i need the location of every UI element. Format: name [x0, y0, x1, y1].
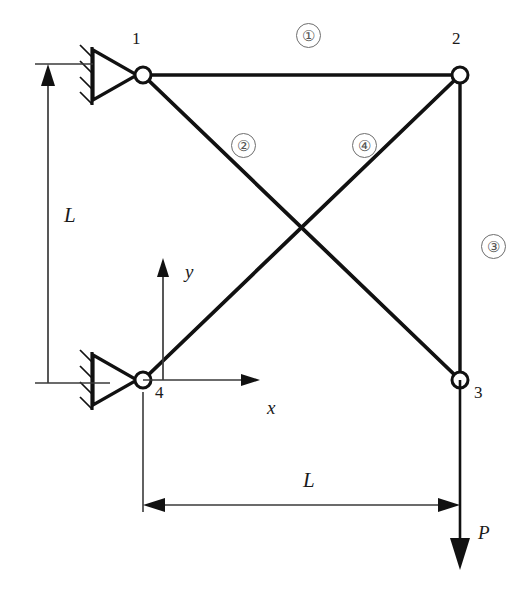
arrowhead-icon-y-axis	[157, 258, 169, 277]
x-axis-label: x	[267, 398, 275, 417]
element-badge-1: ①	[296, 23, 321, 48]
node-label-4: 4	[155, 384, 164, 401]
truss-diagram: 1 2 3 4 ① ② ③ ④ L L y x P	[0, 0, 530, 595]
hinge-joint-icon-node-2	[452, 67, 468, 83]
support-triangle-node-1	[93, 50, 137, 100]
node-label-2: 2	[452, 30, 461, 47]
node-label-3: 3	[474, 384, 483, 401]
dimension-label-vertical: L	[64, 205, 76, 226]
pin-support-icon-node-4	[80, 350, 137, 410]
element-badge-3: ③	[481, 234, 506, 259]
arrowhead-icon-x-axis	[241, 374, 260, 386]
element-badge-2: ②	[231, 133, 256, 158]
support-triangle-node-4	[93, 355, 137, 405]
pin-support-icon-node-1	[80, 45, 137, 105]
y-axis-label: y	[185, 262, 193, 281]
load-label-P: P	[478, 523, 490, 542]
truss-members	[143, 75, 460, 380]
element-badge-4: ④	[352, 133, 377, 158]
hinge-joint-icon-node-1	[135, 67, 151, 83]
dimension-label-horizontal: L	[303, 470, 315, 491]
arrowhead-icon-load	[450, 538, 470, 570]
dimension-horizontal-span	[143, 392, 460, 512]
arrowhead-icon-dimension-right	[438, 498, 460, 512]
arrowhead-icon-dimension-left	[143, 498, 165, 512]
hatching-icon-node-1	[80, 45, 92, 104]
hatching-icon-node-4	[80, 350, 92, 409]
arrowhead-icon-dimension-up	[41, 64, 55, 86]
load-arrow-P	[450, 380, 470, 570]
truss-diagram-canvas	[0, 0, 530, 595]
node-label-1: 1	[132, 30, 141, 47]
